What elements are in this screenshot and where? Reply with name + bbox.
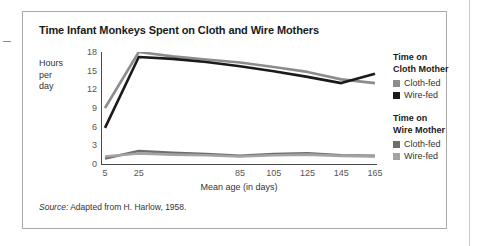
legend-heading-line-1: Time on: [393, 113, 484, 125]
legend-item-1-0[interactable]: Cloth-fed: [393, 139, 484, 149]
y-axis-tick-15: 15: [81, 66, 97, 76]
y-axis-tick-9: 9: [81, 103, 97, 113]
y-axis-title-line-2: per: [39, 70, 77, 82]
left-margin-dash: [3, 41, 11, 42]
x-axis-title: Mean age (in days): [101, 182, 377, 192]
plot-area: Hours per day 0369121518 Mean age (in da…: [39, 48, 379, 188]
legend-group-1: Time onWire MotherCloth-fedWire-fed: [393, 113, 484, 161]
source-note: Source: Adapted from H. Harlow, 1958.: [39, 202, 186, 212]
legend-group-0: Time onCloth MotherCloth-fedWire-fed: [393, 52, 484, 100]
y-axis-title-line-3: day: [39, 81, 77, 93]
legend-item-0-0[interactable]: Cloth-fed: [393, 78, 484, 88]
figure-container: Time Infant Monkeys Spent on Cloth and W…: [22, 11, 447, 229]
legend-item-label: Wire-fed: [404, 90, 438, 100]
chart-legend: Time onCloth MotherCloth-fedWire-fedTime…: [393, 52, 484, 174]
legend-swatch-icon: [393, 92, 400, 99]
x-axis-tick-165: 165: [367, 168, 382, 178]
legend-swatch-icon: [393, 153, 400, 160]
y-axis-tick-0: 0: [81, 159, 97, 169]
source-text: Adapted from H. Harlow, 1958.: [68, 202, 186, 212]
y-axis-tick-18: 18: [81, 47, 97, 57]
legend-swatch-icon: [393, 80, 400, 87]
x-axis-tick-105: 105: [266, 168, 281, 178]
legend-heading-line-1: Time on: [393, 52, 484, 64]
legend-group-heading-1: Time onWire Mother: [393, 113, 484, 136]
legend-item-label: Cloth-fed: [404, 78, 441, 88]
x-axis-tick-85: 85: [235, 168, 245, 178]
legend-item-1-1[interactable]: Wire-fed: [393, 151, 484, 161]
y-axis-tick-12: 12: [81, 84, 97, 94]
y-axis-title-line-1: Hours: [39, 58, 77, 70]
x-axis-tick-145: 145: [334, 168, 349, 178]
chart-title: Time Infant Monkeys Spent on Cloth and W…: [39, 24, 319, 36]
x-axis-tick-125: 125: [300, 168, 315, 178]
series-line-0: [105, 52, 375, 108]
legend-item-0-1[interactable]: Wire-fed: [393, 90, 484, 100]
series-line-1: [105, 57, 375, 128]
x-axis-tick-5: 5: [102, 168, 107, 178]
legend-heading-line-2: Wire Mother: [393, 125, 484, 137]
chart-lines: [101, 52, 379, 166]
source-label: Source:: [39, 202, 68, 212]
legend-item-label: Cloth-fed: [404, 139, 441, 149]
legend-heading-line-2: Cloth Mother: [393, 64, 484, 76]
legend-item-label: Wire-fed: [404, 151, 438, 161]
legend-swatch-icon: [393, 141, 400, 148]
legend-group-heading-0: Time onCloth Mother: [393, 52, 484, 75]
y-axis-tick-labels: 0369121518: [81, 48, 97, 160]
y-axis-tick-6: 6: [81, 122, 97, 132]
y-axis-title: Hours per day: [39, 58, 77, 93]
x-axis-tick-25: 25: [134, 168, 144, 178]
y-axis-tick-3: 3: [81, 140, 97, 150]
